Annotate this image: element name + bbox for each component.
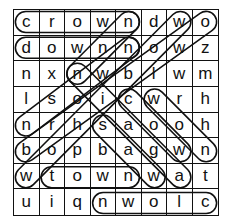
grid-cell[interactable]: b <box>91 138 117 164</box>
grid-cell[interactable]: t <box>193 164 219 190</box>
grid-cell[interactable]: g <box>142 138 168 164</box>
grid-cell[interactable]: o <box>142 113 168 139</box>
grid-cell[interactable]: o <box>65 164 91 190</box>
grid-cell[interactable]: o <box>167 113 193 139</box>
grid-cell[interactable]: n <box>14 61 40 87</box>
grid-cell[interactable]: b <box>14 138 40 164</box>
grid-cell[interactable]: n <box>91 189 117 215</box>
grid-cell[interactable]: x <box>40 61 66 87</box>
grid-cell[interactable]: n <box>116 10 142 36</box>
grid-cell[interactable]: w <box>142 87 168 113</box>
grid-cell[interactable]: o <box>40 36 66 62</box>
grid-cell[interactable]: o <box>142 189 168 215</box>
grid-cell[interactable]: n <box>116 164 142 190</box>
grid-cell[interactable]: r <box>40 10 66 36</box>
grid-cell[interactable]: w <box>91 10 117 36</box>
grid-cell[interactable]: n <box>14 113 40 139</box>
grid-cell[interactable]: t <box>40 164 66 190</box>
grid-cell[interactable]: u <box>14 189 40 215</box>
grid-cell[interactable]: w <box>142 164 168 190</box>
word-search-grid: crowndwodownnowznxnwblwmlsoicwrhnrhsaooh… <box>13 9 219 216</box>
grid-cell[interactable]: c <box>116 87 142 113</box>
grid-cell[interactable]: d <box>14 36 40 62</box>
grid-cell[interactable]: s <box>40 87 66 113</box>
grid-cell[interactable]: m <box>193 61 219 87</box>
grid-cell[interactable]: w <box>91 61 117 87</box>
grid-cell[interactable]: w <box>14 164 40 190</box>
grid-cell[interactable]: n <box>193 138 219 164</box>
grid-cell[interactable]: n <box>116 36 142 62</box>
grid-cell[interactable]: w <box>167 36 193 62</box>
grid-cell[interactable]: c <box>14 10 40 36</box>
grid-cell[interactable]: n <box>65 61 91 87</box>
grid-cell[interactable]: p <box>65 138 91 164</box>
grid-cell[interactable]: l <box>14 87 40 113</box>
grid-cell[interactable]: o <box>65 87 91 113</box>
grid-cell[interactable]: a <box>116 138 142 164</box>
grid-cell[interactable]: o <box>142 36 168 62</box>
grid-cell[interactable]: r <box>167 87 193 113</box>
grid-cell[interactable]: z <box>193 36 219 62</box>
grid-cell[interactable]: h <box>65 113 91 139</box>
grid-cell[interactable]: h <box>193 113 219 139</box>
grid-cell[interactable]: w <box>65 36 91 62</box>
grid-cell[interactable]: w <box>167 138 193 164</box>
grid-cell[interactable]: l <box>167 189 193 215</box>
grid-cell[interactable]: o <box>40 138 66 164</box>
grid-cell[interactable]: o <box>193 10 219 36</box>
grid-cell[interactable]: n <box>91 36 117 62</box>
grid-cell[interactable]: w <box>167 10 193 36</box>
grid-cell[interactable]: i <box>91 87 117 113</box>
grid-cell[interactable]: l <box>142 61 168 87</box>
grid-cell[interactable]: a <box>167 164 193 190</box>
grid-cell[interactable]: h <box>193 87 219 113</box>
grid-cell[interactable]: q <box>65 189 91 215</box>
grid-cell[interactable]: i <box>40 189 66 215</box>
grid-cell[interactable]: d <box>142 10 168 36</box>
grid-cell[interactable]: w <box>91 164 117 190</box>
grid-cell[interactable]: c <box>193 189 219 215</box>
grid-cell[interactable]: r <box>40 113 66 139</box>
grid-cell[interactable]: w <box>167 61 193 87</box>
grid-cell[interactable]: b <box>116 61 142 87</box>
grid-cell[interactable]: o <box>65 10 91 36</box>
grid-cell[interactable]: s <box>91 113 117 139</box>
grid-cell[interactable]: a <box>116 113 142 139</box>
grid-cell[interactable]: w <box>116 189 142 215</box>
